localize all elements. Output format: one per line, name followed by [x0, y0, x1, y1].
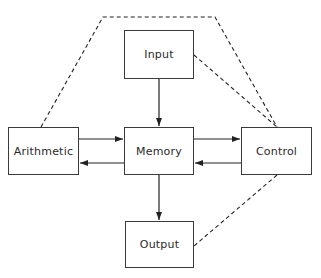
output-box: Output [125, 221, 194, 268]
control-box: Control [241, 127, 312, 175]
block-diagram: Input Arithmetic Memory Control Output [0, 0, 321, 278]
output-label: Output [140, 238, 179, 251]
memory-label: Memory [136, 145, 182, 158]
input-box: Input [124, 30, 194, 79]
dashed-control-to-input [194, 55, 277, 127]
dashed-control-to-output [194, 175, 277, 246]
arithmetic-box: Arithmetic [8, 127, 79, 175]
control-label: Control [256, 145, 297, 158]
input-label: Input [144, 48, 173, 61]
memory-box: Memory [124, 127, 194, 175]
arithmetic-label: Arithmetic [14, 145, 73, 158]
